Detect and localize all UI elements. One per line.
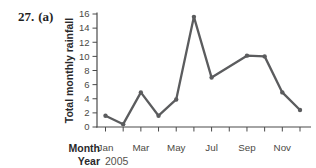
y-tick-label: 0 [84, 121, 89, 132]
y-tick-label: 10 [79, 51, 90, 62]
x-tick-label: May [167, 142, 186, 153]
data-point [192, 15, 196, 19]
data-point [174, 97, 178, 101]
data-point [121, 122, 125, 126]
x-tick-label: Nov [274, 142, 292, 153]
rainfall-line-chart: 0246810121416JanMarMayJulSepNov [0, 0, 316, 168]
rainfall-line [106, 17, 301, 124]
y-tick-label: 2 [84, 107, 89, 118]
data-point [280, 90, 284, 94]
y-tick-label: 4 [84, 93, 89, 104]
worksheet-page: 27.(a) Total monthly rainfall 0246810121… [0, 0, 316, 168]
y-tick-label: 14 [79, 22, 90, 33]
y-tick-label: 16 [79, 8, 90, 19]
data-point [245, 53, 249, 57]
y-tick-label: 12 [79, 37, 90, 48]
data-point [298, 108, 302, 112]
data-point [262, 54, 266, 58]
x-tick-label: Jul [205, 142, 218, 153]
data-point [209, 75, 213, 79]
data-point [139, 90, 143, 94]
x-axis-caption: Month [52, 142, 100, 154]
year-caption: Year [52, 155, 100, 167]
year-value: 2005 [105, 155, 128, 167]
x-tick-label: Sep [238, 142, 256, 153]
y-tick-label: 6 [84, 79, 89, 90]
y-tick-label: 8 [84, 65, 89, 76]
data-point [103, 114, 107, 118]
x-tick-label: Mar [132, 142, 150, 153]
data-point [156, 114, 160, 118]
